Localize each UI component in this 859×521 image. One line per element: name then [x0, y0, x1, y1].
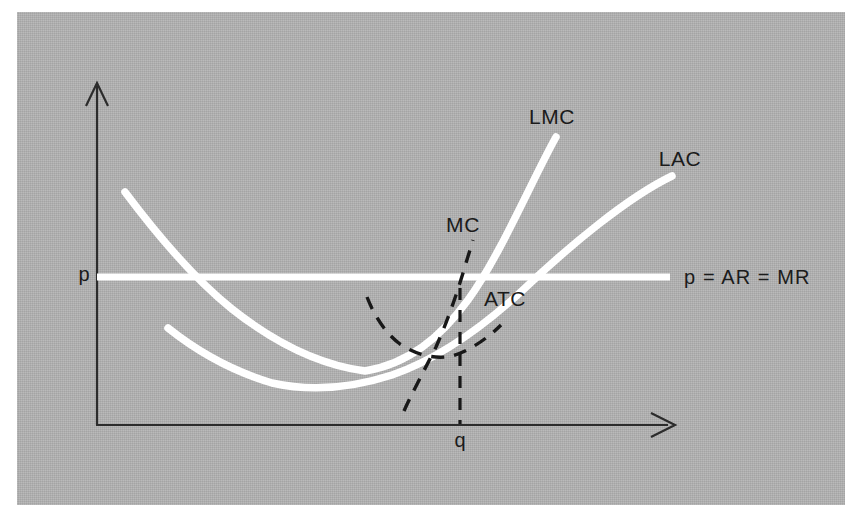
long-run-curves-group: [97, 137, 672, 388]
lac-curve: [168, 176, 672, 388]
mc-curve: [404, 240, 473, 411]
figure-root: LMC LAC MC ATC p = AR = MR p q: [0, 0, 859, 521]
price-equals-ar-equals-mr-label: p = AR = MR: [684, 266, 811, 288]
short-run-curves-group: [367, 240, 501, 424]
cost-curve-diagram: LMC LAC MC ATC p = AR = MR p q: [0, 0, 859, 521]
atc-label: ATC: [484, 287, 526, 310]
axes-group: [86, 83, 675, 437]
lac-label: LAC: [659, 147, 702, 170]
price-axis-tick-label: p: [78, 263, 89, 285]
quantity-axis-tick-label: q: [454, 429, 465, 451]
lmc-curve: [125, 137, 556, 371]
mc-label: MC: [446, 213, 480, 236]
lmc-label: LMC: [529, 105, 575, 128]
